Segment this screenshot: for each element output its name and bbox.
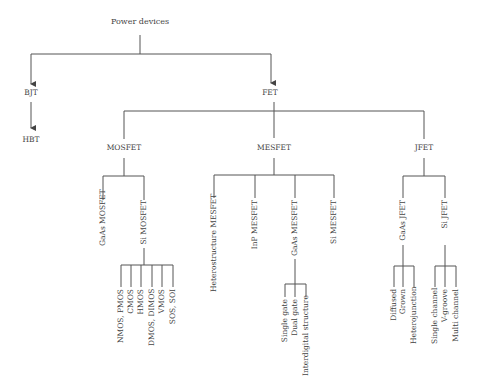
node-mosfet: MOSFET bbox=[107, 144, 142, 152]
node-cmos: CMOS bbox=[127, 289, 135, 346]
node-dual-gate: Dual gate bbox=[291, 299, 299, 376]
node-mesfet: MESFET bbox=[257, 144, 291, 152]
node-gaas-mesfet: GaAs MESFET bbox=[291, 200, 299, 257]
node-nmos-pmos: NMOS, PMOS bbox=[117, 289, 125, 346]
node-gaas-mosfet: GaAs MOSFET bbox=[99, 200, 107, 246]
node-vmos: VMOS bbox=[158, 289, 166, 346]
connector-lines bbox=[0, 0, 480, 386]
node-jfet: JFET bbox=[415, 144, 434, 152]
node-inp-mesfet: InP MESFET bbox=[251, 200, 259, 292]
node-hmos: HMOS bbox=[137, 289, 145, 346]
node-grown: Grown bbox=[399, 289, 407, 344]
node-multi-channel: Multi channel bbox=[452, 289, 460, 344]
node-si-mesfet: Si MESFET bbox=[330, 200, 338, 257]
node-interdigital-structure: Interdigital structure bbox=[302, 299, 310, 376]
node-si-jfet: Si JFET bbox=[441, 200, 449, 244]
node-bjt: BJT bbox=[24, 89, 38, 97]
node-diffused: Diffused bbox=[390, 289, 398, 344]
node-single-gate: Single gate bbox=[281, 299, 289, 376]
node-hbt: HBT bbox=[22, 136, 39, 144]
node-gaas-jfet: GaAs JFET bbox=[399, 200, 407, 244]
node-heterojunction: Heterojunction bbox=[410, 289, 418, 344]
node-v-groove: V-groove bbox=[441, 289, 449, 344]
node-dmos-dimos: DMOS, DIMOS bbox=[148, 289, 156, 346]
node-power-devices: Power devices bbox=[111, 18, 169, 26]
node-si-mosfet: Si MOSFET bbox=[140, 200, 148, 246]
node-sos-soi: SOS, SOI bbox=[169, 289, 177, 346]
node-single-channel: Single channel bbox=[431, 289, 439, 344]
node-heterostructure-mesfet: Heterostructure MESFET bbox=[210, 200, 218, 292]
node-fet: FET bbox=[262, 89, 278, 97]
